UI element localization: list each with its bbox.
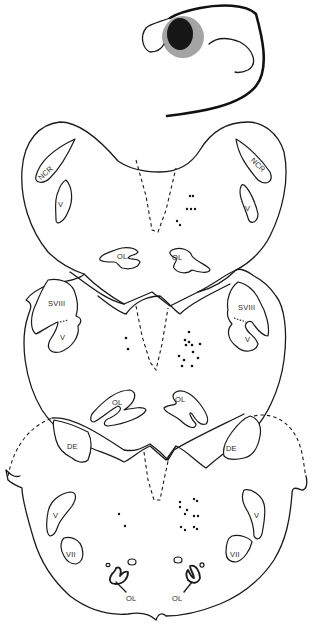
ol-left-2 [91, 390, 146, 426]
ol-right-3-label: OL [172, 594, 182, 603]
section-3-dashed-right [254, 415, 306, 476]
sviii-right-label: SVIII [238, 303, 255, 312]
ol-left-1-label: OL [117, 252, 127, 261]
ol-right-1-label: OL [172, 253, 182, 262]
section-1: NCR NCR V V OL OL [22, 122, 286, 306]
sviii-v-left [32, 279, 81, 352]
ol-left-3-label: OL [126, 594, 136, 603]
lesion-core [167, 18, 193, 50]
labeled-cells-1 [176, 195, 196, 226]
ol-left-3: OL [106, 559, 136, 603]
labeled-cells-2 [125, 331, 202, 368]
sviii-left-label: SVIII [48, 299, 65, 308]
v-left-3-label: V [53, 511, 58, 520]
vii-right-label: VII [230, 550, 240, 559]
v-left-2-label: V [60, 333, 65, 342]
ol-right-2 [164, 391, 208, 428]
inset-brain [143, 6, 264, 116]
de-left-label: DE [67, 442, 78, 451]
ol-right-2-label: OL [175, 395, 185, 404]
section-3: DE DE V V VII VII OL OL [6, 414, 307, 620]
de-right-label: DE [226, 444, 237, 453]
section-3-dashed-left [8, 418, 52, 476]
vii-left-label: VII [66, 550, 76, 559]
v-right-1-label: V [245, 204, 250, 213]
v-left-3 [47, 492, 76, 536]
v-right-2-label: V [245, 335, 250, 344]
labeled-cells-3 [118, 498, 199, 531]
v-left-1-label: V [58, 200, 63, 209]
midline-dashed-2 [136, 306, 168, 370]
brainstem-section-diagram: NCR NCR V V OL OL SVIII V [0, 0, 314, 628]
v-right-3-label: V [254, 511, 259, 520]
ol-left-2-label: OL [112, 398, 122, 407]
ol-right-3: OL [172, 557, 204, 603]
